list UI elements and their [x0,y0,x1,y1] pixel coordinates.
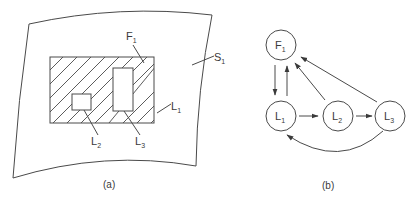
caption-a: (a) [103,179,115,190]
node-l2-label: L2 [332,110,342,124]
loop-l3-hole [113,68,133,111]
label-f1: F1 [126,30,137,44]
node-l1-label: L1 [275,110,285,124]
panel-a: F1 S1 L1 L2 L3 (a) [13,11,225,190]
panel-b: F1 L1 L2 L3 (b) [266,30,405,191]
edge-l3-to-f1 [301,57,377,102]
label-l2: L2 [91,135,101,149]
label-s1: S1 [214,51,225,65]
loop-l2-hole [72,94,91,110]
edge-l3-to-l1 [287,131,383,152]
label-l1: L1 [171,100,181,114]
figure-canvas: F1 S1 L1 L2 L3 (a) F1 L1 L2 L3 (b) [0,0,412,200]
caption-b: (b) [322,180,334,191]
node-l3-label: L3 [384,110,394,124]
label-l3: L3 [135,135,145,149]
node-f1-label: F1 [275,39,286,53]
loop-l1-boundary [50,57,154,123]
